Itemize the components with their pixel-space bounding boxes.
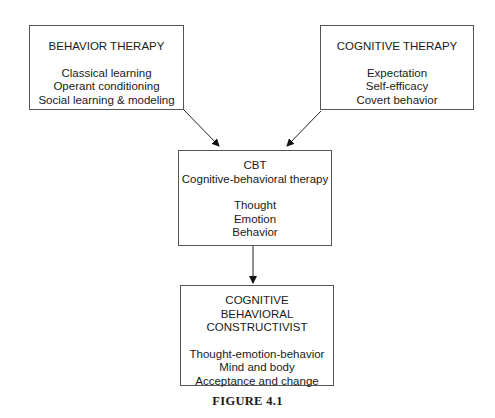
box-title: BEHAVIOR THERAPY bbox=[30, 40, 183, 54]
box-title: COGNITIVE bbox=[181, 294, 333, 308]
box-item: Thought bbox=[179, 199, 331, 213]
figure-caption: FIGURE 4.1 bbox=[0, 394, 495, 409]
arrow-cognitive-to-cbt bbox=[287, 111, 321, 146]
box-item: Mind and body bbox=[181, 361, 333, 375]
box-item: Expectation bbox=[321, 67, 473, 81]
box-item: Classical learning bbox=[30, 67, 183, 81]
box-item: Self-efficacy bbox=[321, 80, 473, 94]
box-subtitle: Cognitive-behavioral therapy bbox=[179, 173, 331, 187]
box-title: CONSTRUCTIVIST bbox=[181, 321, 333, 335]
arrow-behavior-to-cbt bbox=[183, 109, 219, 146]
box-item: Social learning & modeling bbox=[30, 94, 183, 108]
behavior-therapy-box: BEHAVIOR THERAPY Classical learning Oper… bbox=[29, 25, 184, 110]
cognitive-behavioral-constructivist-box: COGNITIVE BEHAVIORAL CONSTRUCTIVIST Thou… bbox=[180, 285, 334, 386]
box-title: COGNITIVE THERAPY bbox=[321, 40, 473, 54]
box-item: Behavior bbox=[179, 226, 331, 240]
box-title: CBT bbox=[179, 159, 331, 173]
box-item: Covert behavior bbox=[321, 94, 473, 108]
box-item: Thought-emotion-behavior bbox=[181, 348, 333, 362]
box-item: Emotion bbox=[179, 213, 331, 227]
box-item: Acceptance and change bbox=[181, 375, 333, 389]
cbt-box: CBT Cognitive-behavioral therapy Thought… bbox=[178, 150, 332, 246]
cognitive-therapy-box: COGNITIVE THERAPY Expectation Self-effic… bbox=[320, 25, 474, 110]
box-item: Operant conditioning bbox=[30, 80, 183, 94]
box-title: BEHAVIORAL bbox=[181, 308, 333, 322]
